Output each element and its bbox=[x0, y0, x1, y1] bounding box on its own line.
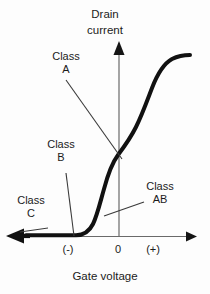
annotation-class-c: ClassC bbox=[4, 194, 58, 220]
annotation-class-a-line2: A bbox=[38, 63, 94, 76]
x-axis-title: Gate voltage bbox=[0, 270, 210, 283]
annotation-class-ab: ClassAB bbox=[132, 180, 188, 206]
class-c-leader-line bbox=[20, 228, 48, 232]
y-axis-arrowhead bbox=[114, 41, 125, 55]
class-b-leader-line bbox=[66, 173, 74, 236]
annotation-class-ab-line1: Class bbox=[146, 180, 174, 192]
annotation-class-ab-line2: AB bbox=[132, 193, 188, 206]
x-tick-label-positive: (+) bbox=[140, 243, 166, 256]
y-axis-title-line1: Drain bbox=[91, 8, 118, 20]
annotation-class-b-line1: Class bbox=[47, 138, 75, 150]
y-axis-title-line2: current bbox=[87, 24, 123, 36]
annotation-class-b-line2: B bbox=[33, 151, 89, 164]
annotation-class-a-line1: Class bbox=[52, 50, 80, 62]
drain-current-gate-voltage-figure: Draincurrent ClassA ClassB ClassC ClassA… bbox=[0, 0, 210, 294]
annotation-class-c-line2: C bbox=[4, 207, 58, 220]
x-tick-label-zero: 0 bbox=[105, 243, 131, 256]
x-axis-right-arrowhead bbox=[186, 232, 197, 242]
y-axis-title: Draincurrent bbox=[0, 6, 210, 38]
annotation-class-a: ClassA bbox=[38, 50, 94, 76]
annotation-class-c-line1: Class bbox=[17, 194, 45, 206]
x-tick-label-negative: (-) bbox=[55, 243, 81, 256]
annotation-class-b: ClassB bbox=[33, 138, 89, 164]
